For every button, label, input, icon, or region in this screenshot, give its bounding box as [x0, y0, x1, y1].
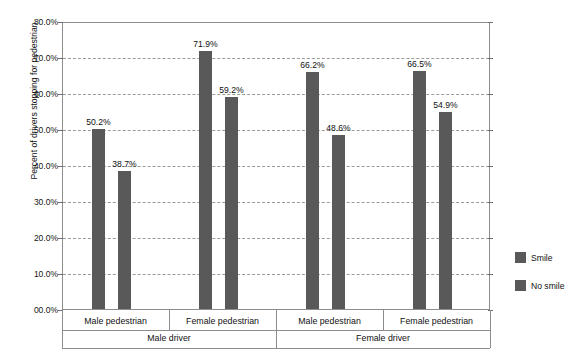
bar-value-label: 66.5% [401, 59, 439, 69]
bar-chart: Percent of drivers stopping for pedestri… [0, 0, 569, 352]
category-separator [276, 310, 277, 330]
category-label: Male pedestrian [276, 311, 383, 330]
y-axis-tick-mark-right [488, 58, 493, 59]
y-axis-tick-mark-right [488, 94, 493, 95]
y-axis-tick-label: 70.0% [18, 53, 58, 63]
y-axis-tick-mark [58, 130, 63, 131]
legend-item[interactable]: Smile [515, 252, 569, 263]
bar [439, 112, 452, 309]
bar [332, 135, 345, 309]
y-axis-tick-mark-right [488, 22, 493, 23]
bar [92, 129, 105, 309]
y-axis-tick-mark [58, 94, 63, 95]
y-axis-tick-mark [58, 274, 63, 275]
supergroup-separator [276, 330, 277, 348]
y-axis-tick-mark [58, 58, 63, 59]
y-axis-tick-mark [58, 238, 63, 239]
y-axis-tick-label: 20.0% [18, 233, 58, 243]
bar [225, 97, 238, 309]
y-axis-tick-label: 00.0% [18, 305, 58, 315]
bar-value-label: 38.7% [106, 159, 144, 169]
y-axis-tick-label: 10.0% [18, 269, 58, 279]
category-separator [383, 310, 384, 330]
bar-value-label: 50.2% [80, 117, 118, 127]
legend-swatch-icon [515, 252, 526, 263]
legend-label: Smile [531, 253, 553, 263]
category-label: Female pedestrian [169, 311, 276, 330]
legend-label: No smile [531, 281, 564, 291]
chart-legend: SmileNo smile [515, 252, 569, 308]
bar-value-label: 71.9% [187, 39, 225, 49]
y-axis-tick-mark-right [488, 238, 493, 239]
supergroup-label: Female driver [276, 329, 490, 346]
bar-value-label: 48.6% [320, 123, 358, 133]
bar-value-label: 66.2% [294, 60, 332, 70]
y-axis-tick-mark [58, 166, 63, 167]
y-axis-tick-mark [58, 22, 63, 23]
y-axis-tick-mark-right [488, 274, 493, 275]
bar-value-label: 54.9% [427, 100, 465, 110]
y-axis-tick-label: 60.0% [18, 89, 58, 99]
y-axis-tick-mark [58, 202, 63, 203]
y-axis-tick-label: 30.0% [18, 197, 58, 207]
y-axis-tick-mark-right [488, 166, 493, 167]
y-axis-tick-label: 50.0% [18, 125, 58, 135]
axis-band-bottom [62, 348, 490, 349]
category-label: Female pedestrian [383, 311, 490, 330]
axis-band-edge [490, 310, 491, 348]
y-axis-tick-label: 80.0% [18, 17, 58, 27]
y-axis-tick-mark-right [488, 202, 493, 203]
bar-value-label: 59.2% [213, 85, 251, 95]
bar [199, 51, 212, 309]
legend-swatch-icon [515, 280, 526, 291]
bar [413, 71, 426, 309]
category-separator [169, 310, 170, 330]
y-axis-tick-mark-right [488, 130, 493, 131]
legend-item[interactable]: No smile [515, 280, 569, 291]
y-axis-tick-label: 40.0% [18, 161, 58, 171]
supergroup-label: Male driver [62, 329, 276, 346]
bar [306, 72, 319, 309]
bar [118, 171, 131, 309]
category-label: Male pedestrian [62, 311, 169, 330]
